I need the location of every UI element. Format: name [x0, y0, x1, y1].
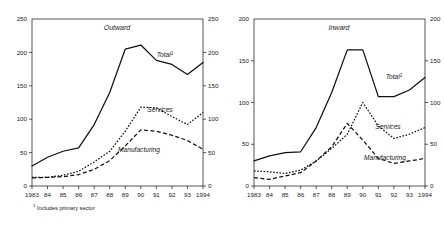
inward-panel-title: Inward	[328, 24, 350, 31]
inward-ytick-label-left: 50	[242, 140, 249, 147]
outward-ytick-label-right: 0	[208, 182, 212, 189]
outward-xtick-label: 88	[106, 191, 113, 198]
inward-x-tick-labels: 1983848586878889909192931994	[247, 191, 432, 198]
outward-ytick-label-left: 250	[17, 15, 28, 22]
inward-ytick-label-left: 150	[239, 57, 250, 64]
outward-series-services	[32, 107, 203, 177]
outward-xtick-label: 86	[75, 191, 82, 198]
outward-ytick-label-left: 0	[24, 182, 28, 189]
inward-series-label-services: Services	[375, 123, 401, 130]
outward-series-label-services: Services	[147, 106, 173, 113]
inward-series-services	[254, 103, 425, 174]
outward-ytick-label-right: 150	[208, 82, 219, 89]
inward-series-label-total: Total1	[386, 73, 403, 80]
inward-right-axis-labels: 050100150200	[430, 15, 441, 189]
inward-xtick-label: 90	[359, 191, 366, 198]
outward-xtick-label: 91	[153, 191, 160, 198]
outward-panel-title: Outward	[104, 24, 132, 31]
chart-panel-inward: 050100150200 050100150200 19838485868788…	[222, 0, 444, 229]
inward-chart-svg: 050100150200 050100150200 19838485868788…	[222, 0, 444, 200]
outward-series-label-manufacturing: Manufacturing	[118, 146, 160, 154]
outward-x-tick-labels: 1983848586878889909192931994	[25, 191, 210, 198]
inward-axis-ticks	[251, 61, 428, 186]
inward-series-label-manufacturing: Manufacturing	[364, 154, 406, 162]
outward-xtick-label: 89	[122, 191, 129, 198]
inward-series-total	[254, 50, 425, 161]
inward-xtick-label: 93	[406, 191, 413, 198]
footnote-text: Includes primary sector	[35, 205, 94, 211]
inward-xtick-label: 87	[313, 191, 320, 198]
figure-container: 050100150200250 050100150200250 19838485…	[0, 0, 444, 229]
inward-x-ticks	[254, 186, 425, 189]
outward-chart-svg: 050100150200250 050100150200250 19838485…	[0, 0, 222, 200]
inward-xtick-label: 1994	[418, 191, 432, 198]
outward-ytick-label-right: 250	[208, 15, 219, 22]
outward-x-ticks	[32, 186, 203, 189]
outward-ytick-label-right: 200	[208, 49, 219, 56]
outward-xtick-label: 87	[91, 191, 98, 198]
outward-ytick-label-left: 100	[17, 115, 28, 122]
inward-xtick-label: 89	[344, 191, 351, 198]
outward-ytick-label-right: 50	[208, 149, 215, 156]
inward-ytick-label-right: 100	[430, 99, 441, 106]
outward-xtick-label: 90	[137, 191, 144, 198]
outward-xtick-label: 84	[44, 191, 51, 198]
chart-panel-outward: 050100150200250 050100150200250 19838485…	[0, 0, 222, 229]
footnote: 1 Includes primary sector	[33, 203, 95, 211]
inward-xtick-label: 92	[390, 191, 397, 198]
outward-ytick-label-left: 200	[17, 49, 28, 56]
inward-xtick-label: 1983	[247, 191, 261, 198]
inward-ytick-label-right: 200	[430, 15, 441, 22]
outward-xtick-label: 1994	[196, 191, 210, 198]
inward-ytick-label-left: 0	[246, 182, 250, 189]
outward-series-lines	[32, 45, 203, 178]
inward-xtick-label: 84	[266, 191, 273, 198]
inward-ytick-label-left: 100	[239, 99, 250, 106]
inward-series-manufacturing	[254, 123, 425, 179]
outward-xtick-label: 92	[168, 191, 175, 198]
inward-xtick-label: 88	[328, 191, 335, 198]
outward-xtick-label: 85	[60, 191, 67, 198]
inward-ytick-label-right: 0	[430, 182, 434, 189]
inward-xtick-label: 86	[297, 191, 304, 198]
outward-right-axis-labels: 050100150200250	[208, 15, 219, 189]
inward-left-axis-labels: 050100150200	[239, 15, 250, 189]
inward-ytick-label-left: 200	[239, 15, 250, 22]
outward-ytick-label-right: 100	[208, 115, 219, 122]
inward-xtick-label: 85	[282, 191, 289, 198]
outward-series-label-total: Total1	[157, 51, 174, 58]
outward-ytick-label-left: 50	[20, 149, 27, 156]
outward-xtick-label: 93	[184, 191, 191, 198]
inward-ytick-label-right: 50	[430, 140, 437, 147]
inward-ytick-label-right: 150	[430, 57, 441, 64]
outward-xtick-label: 1983	[25, 191, 39, 198]
outward-ytick-label-left: 150	[17, 82, 28, 89]
outward-plot-frame	[32, 19, 203, 186]
outward-left-axis-labels: 050100150200250	[17, 15, 28, 189]
inward-xtick-label: 91	[375, 191, 382, 198]
